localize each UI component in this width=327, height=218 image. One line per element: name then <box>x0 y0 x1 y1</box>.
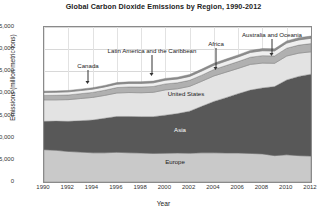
chart-root: Global Carbon Dioxide Emissions by Regio… <box>0 0 327 218</box>
x-axis-tick: 1994 <box>85 184 98 190</box>
annotation-canada: Canada <box>77 62 98 69</box>
x-axis-tick: 2012 <box>303 184 316 190</box>
leader-africa <box>216 48 217 67</box>
x-axis-tick: 1992 <box>61 184 74 190</box>
x-axis-tick: 2002 <box>182 184 195 190</box>
leader-latin-america <box>152 55 153 73</box>
x-axis-tick: 2000 <box>158 184 171 190</box>
annotation-australia-oceania: Australia and Oceania <box>242 31 302 38</box>
x-axis-tick: 1998 <box>133 184 146 190</box>
annotation-asia: Asia <box>174 126 186 133</box>
x-axis-label: Year <box>0 200 327 207</box>
chart-title: Global Carbon Dioxide Emissions by Regio… <box>0 2 327 11</box>
annotation-europe: Europe <box>165 158 185 165</box>
y-axis-tick: 20,000 <box>0 89 14 95</box>
leader-canada <box>88 70 89 81</box>
y-axis-tick: 5,000 <box>0 156 14 162</box>
annotation-united-states: United States <box>168 90 205 97</box>
y-axis-tick: 25,000 <box>0 67 14 73</box>
x-axis-tick: 2010 <box>279 184 292 190</box>
y-axis-tick: 30,000 <box>0 45 14 51</box>
leader-australia-oceania <box>272 39 273 53</box>
annotation-africa: Africa <box>208 40 224 47</box>
y-axis-tick: 0 <box>0 178 14 184</box>
y-axis-tick: 10,000 <box>0 134 14 140</box>
annotation-latin-america: Latin America and the Caribbean <box>108 47 197 54</box>
x-axis-tick: 1996 <box>109 184 122 190</box>
x-axis-tick: 2004 <box>206 184 219 190</box>
x-axis-tick: 2006 <box>230 184 243 190</box>
grid-line-vertical <box>311 27 312 182</box>
x-axis-tick: 1990 <box>36 184 49 190</box>
y-axis-tick: 15,000 <box>0 112 14 118</box>
x-axis-tick: 2008 <box>255 184 268 190</box>
y-axis-tick: 35,000 <box>0 23 14 29</box>
